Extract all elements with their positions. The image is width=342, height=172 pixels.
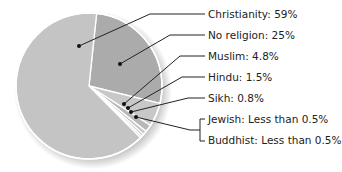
pie-slices (16, 13, 162, 159)
leader-dot (77, 44, 81, 48)
label-buddhist: Buddhist: Less than 0.5% (208, 134, 342, 146)
label-hindu: Hindu: 1.5% (208, 71, 272, 83)
leader-dot (126, 106, 130, 110)
leader-dot (129, 110, 133, 114)
label-muslim: Muslim: 4.8% (208, 50, 279, 62)
label-no-religion: No religion: 25% (208, 29, 295, 41)
bracket-line (200, 119, 205, 141)
label-sikh: Sikh: 0.8% (208, 92, 264, 104)
leader-dot (122, 102, 126, 106)
leader-dot (118, 62, 122, 66)
label-christianity: Christianity: 59% (208, 8, 298, 20)
label-jewish: Jewish: Less than 0.5% (208, 113, 328, 125)
leader-dot (134, 115, 138, 119)
